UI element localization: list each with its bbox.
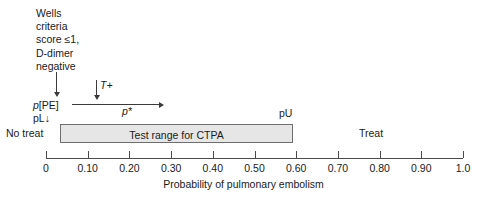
axis-tick-label: 0.80	[369, 162, 389, 174]
axis-title: Probability of pulmonary embolism	[0, 178, 487, 190]
test-range-box-label: Test range for CTPA	[61, 129, 292, 141]
axis-tick	[129, 151, 130, 158]
axis-tick-label: 1.0	[456, 162, 471, 174]
wells-line-5: negative	[36, 60, 79, 73]
axis-tick	[213, 151, 214, 158]
ptt-threshold-figure: Wells criteria score ≤1, D-dimer negativ…	[0, 0, 487, 197]
axis-tick	[380, 151, 381, 158]
axis-tick	[88, 151, 89, 158]
treat-region-label: Treat	[359, 128, 383, 139]
axis-tick-label: 0.50	[244, 162, 264, 174]
axis-tick-label: 0.60	[286, 162, 306, 174]
prior-probability-subject: [PE]	[39, 99, 59, 111]
test-positive-label: T+	[100, 80, 113, 91]
wells-to-ppe-arrow-shaft	[56, 72, 57, 93]
axis-tick-label: 0	[43, 162, 49, 174]
axis-tick	[296, 151, 297, 158]
axis-tick	[463, 151, 464, 158]
axis-tick	[46, 151, 47, 158]
axis-tick-label: 0.40	[203, 162, 223, 174]
probability-axis-line	[46, 158, 463, 159]
test-positive-arrow-shaft	[96, 80, 97, 96]
axis-tick	[338, 151, 339, 158]
posterior-probability-label: p*	[122, 106, 132, 117]
upper-threshold-label: pU	[279, 108, 292, 119]
test-range-box: Test range for CTPA	[60, 124, 293, 143]
axis-tick-label: 0.30	[161, 162, 181, 174]
axis-tick	[255, 151, 256, 158]
wells-line-1: Wells	[36, 7, 79, 20]
axis-tick	[171, 151, 172, 158]
no-treat-region-label: No treat	[6, 128, 43, 139]
wells-line-4: D-dimer	[36, 47, 79, 60]
axis-tick-label: 0.20	[119, 162, 139, 174]
axis-tick	[421, 151, 422, 158]
test-positive-arrowhead	[94, 95, 100, 100]
posterior-arrowhead	[159, 102, 164, 108]
wells-line-3: score ≤1,	[36, 33, 79, 46]
axis-tick-label: 0.10	[77, 162, 97, 174]
lower-threshold-label: pL↓	[33, 113, 50, 124]
wells-line-2: criteria	[36, 20, 79, 33]
posterior-arrow-shaft	[72, 104, 160, 105]
wells-to-ppe-arrowhead	[54, 92, 60, 97]
axis-tick-label: 0.70	[328, 162, 348, 174]
wells-criteria-annotation: Wells criteria score ≤1, D-dimer negativ…	[36, 7, 79, 73]
prior-probability-label: p[PE]	[33, 100, 59, 111]
axis-tick-label: 0.90	[411, 162, 431, 174]
